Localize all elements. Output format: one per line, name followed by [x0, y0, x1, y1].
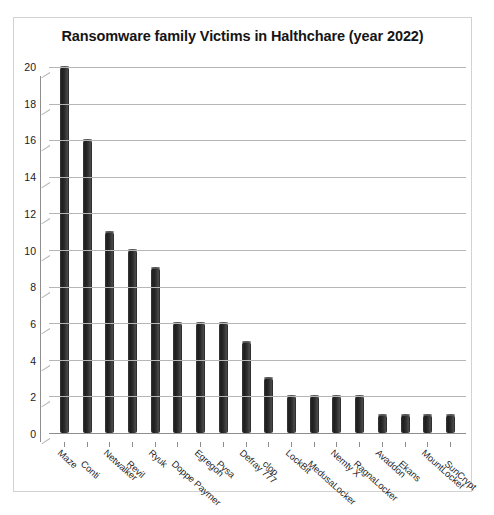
y-axis-tick-label: 0 [30, 428, 36, 440]
bar[interactable] [446, 415, 455, 433]
x-label-slot: clop [257, 447, 280, 507]
y-axis-tick-label: 16 [24, 134, 36, 146]
x-label-slot: Maze [53, 447, 76, 507]
gridline: 12 [49, 213, 466, 214]
x-label-slot: Conti [76, 447, 99, 507]
chart-frame: Ransomware family Victims in Halthchare … [13, 17, 472, 492]
x-axis-category-label: SunCrypt [442, 458, 478, 492]
gridline: 2 [49, 396, 466, 397]
x-axis-labels: MazeContiNetwalkerRevilRyukDoppe PaymerE… [49, 447, 466, 507]
gridline: 8 [49, 287, 466, 288]
bar[interactable] [287, 396, 296, 433]
gridline: 16 [49, 140, 466, 141]
x-label-slot: SunCrypt [439, 447, 462, 507]
gridline: 6 [49, 323, 466, 324]
bar[interactable] [151, 268, 160, 433]
x-label-slot: Egregon [189, 447, 212, 507]
gridline: 18 [49, 104, 466, 105]
y-axis-tick-label: 8 [30, 281, 36, 293]
bar[interactable] [332, 396, 341, 433]
bar[interactable] [423, 415, 432, 433]
bar[interactable] [105, 232, 114, 433]
bar[interactable] [378, 415, 387, 433]
y-axis-tick-label: 14 [24, 171, 36, 183]
bar[interactable] [401, 415, 410, 433]
y-axis-tick-label: 10 [24, 245, 36, 257]
x-label-slot: LockBit [280, 447, 303, 507]
x-label-slot: Ekans [394, 447, 417, 507]
bar[interactable] [264, 378, 273, 433]
scan-header-text [8, 0, 198, 7]
x-label-slot: Ryuk [144, 447, 167, 507]
x-label-slot: RagnaLocker [348, 447, 371, 507]
y-axis-tick-label: 12 [24, 208, 36, 220]
bar[interactable] [219, 323, 228, 433]
x-axis-category-label: clop [260, 458, 280, 478]
y-axis-tick-label: 18 [24, 98, 36, 110]
x-label-slot: Revil [121, 447, 144, 507]
gridline: 20 [49, 67, 466, 68]
bar[interactable] [128, 250, 137, 433]
y-axis-tick-label: 6 [30, 318, 36, 330]
gridline: 4 [49, 360, 466, 361]
x-label-slot: Doppe Paymer [167, 447, 190, 507]
y-axis-tick-label: 20 [24, 61, 36, 73]
bar[interactable] [355, 396, 364, 433]
bar[interactable] [242, 342, 251, 434]
chart-title: Ransomware family Victims in Halthchare … [14, 28, 471, 44]
x-label-slot: MountLocker [417, 447, 440, 507]
x-label-slot: Netwalker [98, 447, 121, 507]
x-label-slot: MedusaLocker [303, 447, 326, 507]
gridline: 14 [49, 177, 466, 178]
bar[interactable] [196, 323, 205, 433]
x-label-slot: Nemty X [326, 447, 349, 507]
x-label-slot: Avaddon [371, 447, 394, 507]
gridline: 0 [49, 433, 466, 434]
bar[interactable] [310, 396, 319, 433]
x-label-slot: Defray 777 [235, 447, 258, 507]
x-label-slot: Pysa [212, 447, 235, 507]
y-axis-tick-label: 4 [30, 355, 36, 367]
y-axis-tick-label: 2 [30, 391, 36, 403]
plot-area: MazeContiNetwalkerRevilRyukDoppe PaymerE… [49, 67, 466, 433]
gridline: 10 [49, 250, 466, 251]
bar[interactable] [173, 323, 182, 433]
